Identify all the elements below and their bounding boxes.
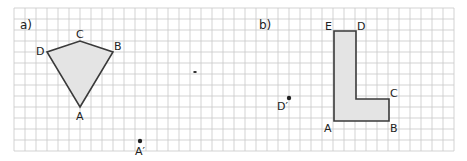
part-label-b: b) xyxy=(259,18,271,32)
kite-ABCD: ABCD xyxy=(36,28,122,123)
part-label-a: a) xyxy=(20,18,32,32)
point-label: A′ xyxy=(135,145,146,158)
vertex-label-b: B xyxy=(390,122,398,135)
point-label: D′ xyxy=(277,100,288,113)
image-point: A′ xyxy=(135,139,146,158)
vertex-label-d: D xyxy=(36,45,44,58)
point-dot xyxy=(138,139,142,143)
vertex-label-a: A xyxy=(76,110,84,123)
vertex-label-b: B xyxy=(114,40,122,53)
geometry-exercise: ABCDABCDE A′D′ a)b) xyxy=(0,0,467,161)
vertex-label-c: C xyxy=(76,28,84,41)
vertex-label-e: E xyxy=(325,20,332,33)
image-points: A′D′ xyxy=(135,71,291,158)
grid-canvas: ABCDABCDE A′D′ a)b) xyxy=(0,0,467,161)
vertex-label-c: C xyxy=(390,87,398,100)
ink-speck xyxy=(194,71,197,73)
l-shape-ABCDE: ABCDE xyxy=(324,20,398,135)
vertex-label-d: D xyxy=(357,20,365,33)
vertex-label-a: A xyxy=(324,122,332,135)
l-shape-ABCDE-polygon xyxy=(334,31,389,121)
